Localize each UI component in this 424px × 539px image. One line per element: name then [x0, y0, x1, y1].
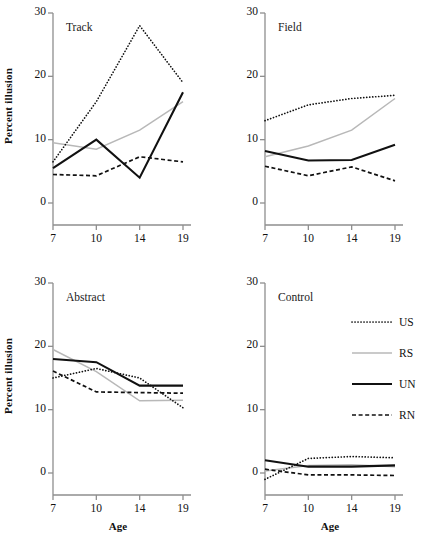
- x-axis-label: Age: [300, 520, 360, 532]
- y-axis-label: Percent illusion: [2, 316, 14, 436]
- series-line-us: [265, 457, 395, 480]
- y-axis-tick-label: 10: [15, 402, 46, 414]
- series-line-us: [265, 95, 395, 120]
- legend-item-un[interactable]: UN: [352, 378, 416, 390]
- x-axis-tick-label: 14: [337, 502, 367, 514]
- legend-item-rs[interactable]: RS: [352, 347, 413, 359]
- plot-area-control: [0, 0, 424, 539]
- y-axis-tick-label: 0: [227, 195, 258, 207]
- x-axis-tick-label: 10: [81, 232, 111, 244]
- y-axis-tick-label: 10: [227, 132, 258, 144]
- series-line-un: [265, 145, 395, 161]
- y-axis-tick-label: 20: [15, 338, 46, 350]
- series-line-un: [265, 460, 395, 466]
- x-axis-tick-label: 14: [125, 232, 155, 244]
- x-axis-tick-label: 14: [125, 502, 155, 514]
- series-line-rs: [53, 102, 183, 150]
- y-axis-tick-label: 30: [227, 5, 258, 17]
- series-line-rn: [265, 469, 395, 475]
- y-axis-tick-label: 0: [15, 465, 46, 477]
- plot-area-abstract: [0, 0, 424, 539]
- x-axis-tick-label: 14: [337, 232, 367, 244]
- series-line-us: [53, 26, 183, 162]
- y-axis-tick-label: 20: [227, 338, 258, 350]
- y-axis-tick-label: 0: [15, 195, 46, 207]
- y-axis-tick-label: 10: [227, 402, 258, 414]
- legend: USRSUNRN: [352, 316, 424, 436]
- chart-panel-track: 01020307101419Track: [0, 0, 424, 539]
- x-axis-tick-label: 10: [293, 232, 323, 244]
- chart-panel-field: 01020307101419Field: [0, 0, 424, 539]
- y-axis-label: Percent illusion: [2, 46, 14, 166]
- legend-item-us[interactable]: US: [352, 316, 414, 328]
- x-axis-tick-label: 19: [380, 232, 410, 244]
- y-axis-tick-label: 30: [15, 275, 46, 287]
- figure-panel-grid: 01020307101419Track01020307101419Field01…: [0, 0, 424, 539]
- x-axis-tick-label: 10: [81, 502, 111, 514]
- panel-title-control: Control: [278, 291, 313, 303]
- series-line-rs: [265, 465, 395, 471]
- legend-label-rn: RN: [399, 409, 415, 421]
- legend-label-rs: RS: [399, 347, 413, 359]
- x-axis-tick-label: 7: [38, 502, 68, 514]
- series-line-rs: [265, 99, 395, 157]
- series-line-un: [53, 359, 183, 386]
- x-axis-tick-label: 7: [250, 232, 280, 244]
- panel-title-track: Track: [66, 21, 92, 33]
- legend-label-un: UN: [399, 378, 416, 390]
- panel-title-abstract: Abstract: [66, 291, 105, 303]
- legend-label-us: US: [399, 316, 414, 328]
- series-line-rs: [53, 350, 183, 401]
- chart-panel-abstract: 01020307101419Abstract: [0, 0, 424, 539]
- series-line-rn: [53, 371, 183, 393]
- x-axis-tick-label: 19: [380, 502, 410, 514]
- plot-area-field: [0, 0, 424, 539]
- legend-swatch-rs: [352, 348, 392, 358]
- x-axis-tick-label: 7: [250, 502, 280, 514]
- y-axis-tick-label: 10: [15, 132, 46, 144]
- legend-item-rn[interactable]: RN: [352, 409, 415, 421]
- series-line-us: [53, 369, 183, 408]
- legend-swatch-us: [352, 317, 392, 327]
- plot-area-track: [0, 0, 424, 539]
- panel-title-field: Field: [278, 21, 302, 33]
- series-line-un: [53, 92, 183, 178]
- x-axis-tick-label: 10: [293, 502, 323, 514]
- chart-panel-control: 01020307101419Control: [0, 0, 424, 539]
- x-axis-tick-label: 19: [168, 502, 198, 514]
- y-axis-tick-label: 20: [15, 68, 46, 80]
- y-axis-tick-label: 0: [227, 465, 258, 477]
- series-line-rn: [265, 166, 395, 181]
- legend-swatch-rn: [352, 410, 392, 420]
- legend-swatch-un: [352, 379, 392, 389]
- y-axis-tick-label: 30: [227, 275, 258, 287]
- x-axis-tick-label: 19: [168, 232, 198, 244]
- y-axis-tick-label: 30: [15, 5, 46, 17]
- x-axis-label: Age: [88, 520, 148, 532]
- y-axis-tick-label: 20: [227, 68, 258, 80]
- x-axis-tick-label: 7: [38, 232, 68, 244]
- series-line-rn: [53, 157, 183, 176]
